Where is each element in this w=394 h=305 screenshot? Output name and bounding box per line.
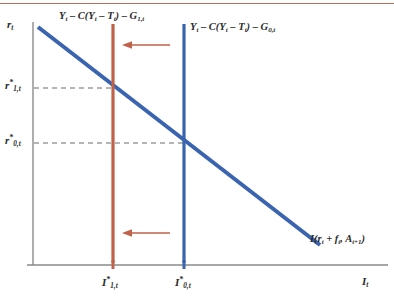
investment-demand-curve	[38, 27, 320, 245]
y-tick-label-r-star-0-t: r*0,t	[5, 135, 21, 146]
y-axis-label: rt	[7, 19, 13, 30]
plot-canvas	[0, 0, 394, 305]
y-tick-label-r-star-1-t: r*1,t	[5, 80, 21, 91]
investment-saving-diagram: rt It Yt – C(Yt – Tt) – G1,t Yt – C(Yt –…	[0, 0, 394, 305]
shift-arrow-lower	[122, 229, 170, 237]
saving-old-curve-label: Yt – C(Yt – Tt) – G0,t	[190, 22, 275, 33]
shift-arrow-upper	[122, 41, 170, 49]
investment-curve-label: I(rt + ft, At+1)	[310, 234, 365, 245]
x-axis-label: It	[362, 276, 368, 287]
saving-new-curve-label: Yt – C(Yt – Tt) – G1,t	[59, 11, 144, 22]
x-tick-label-i-star-0-t: I*0,t	[175, 277, 191, 288]
x-tick-label-i-star-1-t: I*1,t	[102, 277, 118, 288]
